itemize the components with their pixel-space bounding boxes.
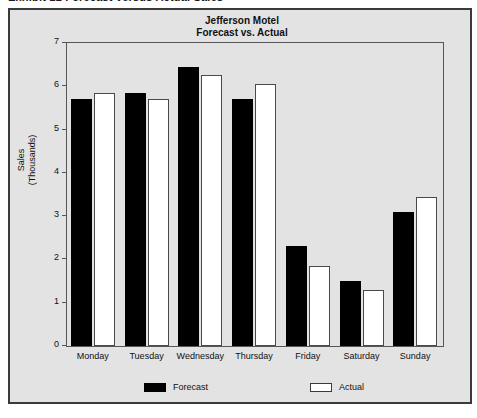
bar-group: [228, 43, 282, 346]
bar-group: [174, 43, 228, 346]
y-axis-title-line2: (Thousands): [27, 120, 38, 200]
x-axis-label: Wednesday: [173, 350, 227, 362]
bar-actual: [94, 93, 115, 346]
chart-figure: Jefferson Motel Forecast vs. Actual Sale…: [8, 8, 472, 404]
bar-group: [121, 43, 175, 346]
y-tick: 7: [39, 42, 67, 43]
bar-forecast: [393, 212, 414, 346]
chart-title-line1: Jefferson Motel: [205, 15, 279, 26]
exhibit-caption-strip: Exhibit 12 Forecast versus Actual Sales: [0, 0, 477, 7]
legend-entry-forecast: Forecast: [144, 381, 208, 393]
y-axis-title: Sales (Thousands): [16, 120, 38, 200]
bar-group: [282, 43, 336, 346]
legend-swatch-forecast-icon: [144, 383, 166, 392]
bar-actual: [201, 75, 222, 346]
chart-legend: Forecast Actual: [10, 381, 474, 397]
y-tick: 4: [39, 172, 67, 173]
y-tick: 2: [39, 258, 67, 259]
x-axis-labels: MondayTuesdayWednesdayThursdayFridaySatu…: [66, 350, 444, 364]
y-tick-label: 6: [54, 79, 59, 90]
legend-entry-actual: Actual: [310, 381, 364, 393]
legend-label-forecast: Forecast: [173, 382, 208, 393]
x-axis-label: Saturday: [335, 350, 389, 362]
y-tick: 6: [39, 85, 67, 86]
y-tick: 0: [39, 345, 67, 346]
y-tick-label: 2: [54, 252, 59, 263]
plot-area: 01234567: [66, 42, 444, 347]
exhibit-caption-text: Exhibit 12 Forecast versus Actual Sales: [8, 0, 223, 3]
bar-forecast: [286, 246, 307, 346]
bar-forecast: [340, 281, 361, 346]
chart-title: Jefferson Motel Forecast vs. Actual: [10, 15, 474, 39]
y-tick-label: 4: [54, 166, 59, 177]
y-axis-title-line1: Sales: [16, 120, 27, 200]
x-axis-label: Tuesday: [120, 350, 174, 362]
chart-title-line2: Forecast vs. Actual: [10, 27, 474, 39]
y-tick-label: 7: [54, 36, 59, 47]
bar-actual: [148, 99, 169, 346]
y-tick: 3: [39, 215, 67, 216]
x-axis-label: Sunday: [388, 350, 442, 362]
bar-forecast: [178, 67, 199, 346]
y-tick: 5: [39, 129, 67, 130]
y-tick-label: 1: [54, 296, 59, 307]
bar-actual: [309, 266, 330, 346]
y-tick-label: 3: [54, 209, 59, 220]
bar-actual: [255, 84, 276, 346]
bar-forecast: [232, 99, 253, 346]
bar-actual: [363, 290, 384, 346]
x-axis-label: Thursday: [227, 350, 281, 362]
y-tick-label: 5: [54, 123, 59, 134]
y-tick: 1: [39, 302, 67, 303]
bar-forecast: [125, 93, 146, 346]
bar-group: [67, 43, 121, 346]
legend-swatch-actual-icon: [310, 383, 332, 392]
bar-forecast: [71, 99, 92, 346]
bar-actual: [416, 197, 437, 346]
bars-layer: [67, 43, 443, 346]
y-tick-label: 0: [54, 339, 59, 350]
x-axis-label: Monday: [66, 350, 120, 362]
bar-group: [389, 43, 443, 346]
legend-label-actual: Actual: [339, 382, 364, 393]
x-axis-label: Friday: [281, 350, 335, 362]
bar-group: [336, 43, 390, 346]
